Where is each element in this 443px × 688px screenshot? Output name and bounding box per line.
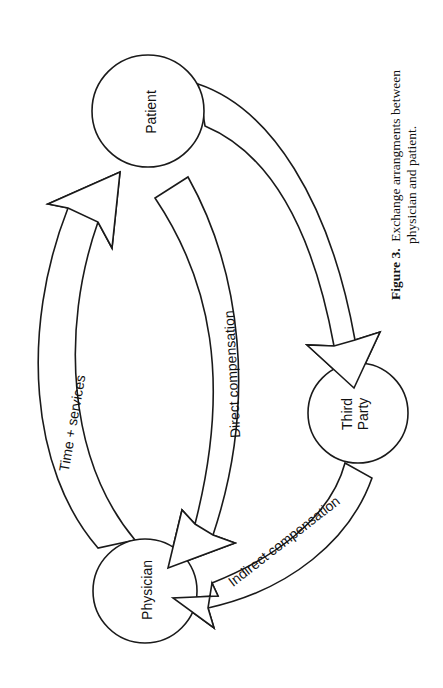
figure-caption: Figure 3. Exchange arrangments between p… xyxy=(388,20,420,350)
caption-text-line2: physician and patient. xyxy=(404,20,420,350)
arrow-time-services xyxy=(38,172,135,548)
label-patient: Patient xyxy=(143,90,159,134)
caption-label: Figure 3. xyxy=(388,248,403,300)
caption-text-line1: Exchange arrangments between xyxy=(388,70,403,242)
exchange-diagram: Patient Third Party Physician Time + ser… xyxy=(0,0,443,688)
label-third-party-line1: Third xyxy=(339,398,355,430)
label-physician: Physician xyxy=(139,560,155,620)
label-third-party-line2: Party xyxy=(355,398,371,431)
